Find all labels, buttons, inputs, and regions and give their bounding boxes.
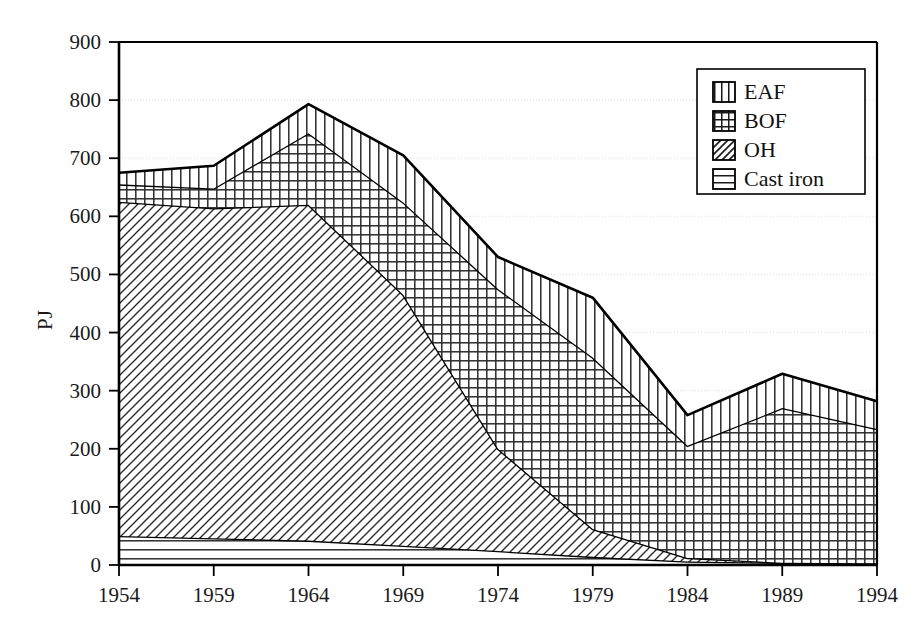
y-axis-tick-label: 800	[70, 88, 102, 112]
y-axis-tick-label: 300	[70, 379, 102, 403]
x-axis-tick-label: 1984	[667, 583, 710, 607]
x-axis-tick-label: 1969	[382, 583, 424, 607]
y-axis-tick-label: 500	[70, 262, 102, 286]
y-axis-tick-label: 100	[70, 495, 102, 519]
y-axis-tick-label: 400	[70, 321, 102, 345]
y-axis: 0100200300400500600700800900	[70, 30, 120, 577]
x-axis-tick-label: 1989	[761, 583, 803, 607]
legend-label-cast-iron: Cast iron	[744, 166, 824, 191]
x-axis-tick-label: 1954	[98, 583, 141, 607]
legend-label-bof: BOF	[744, 108, 787, 133]
y-axis-tick-label: 900	[70, 30, 102, 54]
x-axis-tick-label: 1959	[193, 583, 235, 607]
legend-swatch-oh	[713, 140, 735, 160]
legend-label-oh: OH	[744, 137, 776, 162]
legend-swatch-eaf	[713, 82, 735, 102]
x-axis-tick-label: 1964	[288, 583, 331, 607]
x-axis-tick-label: 1979	[572, 583, 614, 607]
y-axis-tick-label: 200	[70, 437, 102, 461]
legend-swatch-cast-iron	[713, 169, 735, 189]
y-axis-tick-label: 600	[70, 204, 102, 228]
stacked-area-chart: 0100200300400500600700800900 19541959196…	[0, 0, 915, 633]
y-axis-tick-label: 700	[70, 146, 102, 170]
x-axis-tick-label: 1994	[856, 583, 899, 607]
x-axis-tick-label: 1974	[477, 583, 520, 607]
legend: EAFBOFOHCast iron	[697, 69, 865, 194]
y-axis-tick-label: 0	[91, 553, 102, 577]
y-axis-title: PJ	[33, 310, 57, 330]
chart-container: 0100200300400500600700800900 19541959196…	[0, 0, 915, 633]
x-axis: 195419591964196919741979198419891994	[98, 565, 899, 607]
legend-label-eaf: EAF	[744, 79, 786, 104]
legend-swatch-bof	[713, 111, 735, 131]
